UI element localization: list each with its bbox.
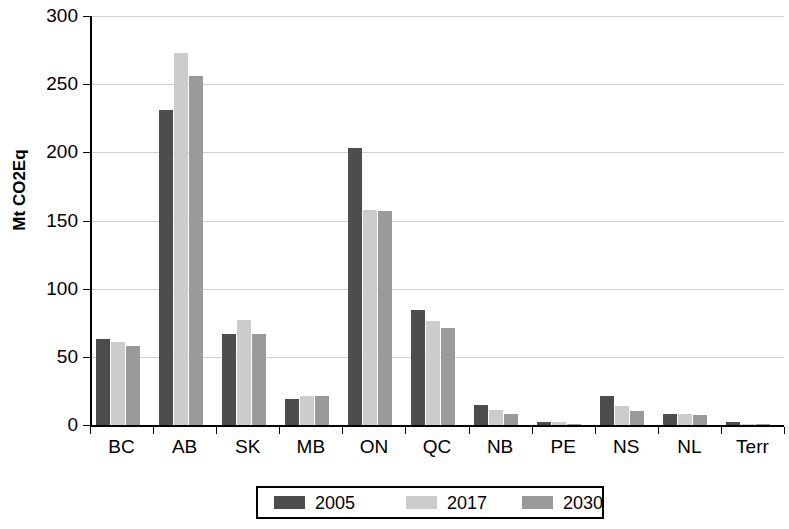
y-tick-label: 200 (18, 142, 78, 161)
bar (489, 410, 503, 425)
y-tick-mark (83, 357, 90, 358)
y-tick-mark (83, 425, 90, 426)
bar (159, 110, 173, 425)
legend: 200520172030 (256, 486, 604, 519)
x-tick-mark (405, 427, 406, 434)
bar (189, 76, 203, 425)
plot-area: 300250200150100500 (90, 16, 784, 425)
bar (252, 334, 266, 425)
bar (474, 405, 488, 425)
legend-item-2030[interactable]: 2030 (522, 488, 603, 517)
bar-group (537, 16, 581, 425)
y-tick-label: 250 (18, 74, 78, 93)
y-tick-mark (83, 84, 90, 85)
y-tick-mark (83, 221, 90, 222)
y-tick-label: 150 (18, 211, 78, 230)
bar (615, 406, 629, 425)
bar (678, 414, 692, 425)
x-tick-mark (784, 427, 785, 434)
bar (111, 342, 125, 425)
bar (126, 346, 140, 425)
x-axis-labels: BCABSKMBONQCNBPENSNLTerr (90, 437, 784, 465)
x-tick-mark (658, 427, 659, 434)
bar-group (411, 16, 455, 425)
bar-group (222, 16, 266, 425)
x-tick-mark (342, 427, 343, 434)
x-tick-mark (532, 427, 533, 434)
bar (315, 396, 329, 425)
x-tick-mark (595, 427, 596, 434)
legend-item-2005[interactable]: 2005 (274, 488, 355, 517)
bar-group (600, 16, 644, 425)
legend-label: 2005 (315, 494, 355, 512)
y-tick-label: 50 (18, 347, 78, 366)
bar (426, 321, 440, 425)
x-tick-mark (216, 427, 217, 434)
bar-group (663, 16, 707, 425)
legend-swatch-icon (522, 496, 553, 509)
legend-label: 2017 (447, 494, 487, 512)
bar (348, 148, 362, 425)
bar (237, 320, 251, 425)
x-axis-line (90, 425, 784, 427)
bar-group (726, 16, 770, 425)
x-tick-mark (153, 427, 154, 434)
y-tick-label: 0 (18, 415, 78, 434)
bar (411, 310, 425, 425)
y-tick-label: 300 (18, 6, 78, 25)
bar (630, 411, 644, 425)
bar-group (96, 16, 140, 425)
bar (222, 334, 236, 425)
x-tick-mark (469, 427, 470, 434)
x-tick-mark (279, 427, 280, 434)
y-tick-label: 100 (18, 279, 78, 298)
bar-group (285, 16, 329, 425)
y-tick-mark (83, 289, 90, 290)
bar (300, 396, 314, 425)
bar (96, 339, 110, 425)
bar (378, 211, 392, 425)
bar (600, 396, 614, 425)
legend-item-2017[interactable]: 2017 (406, 488, 487, 517)
legend-label: 2030 (563, 494, 603, 512)
bar (663, 414, 677, 425)
x-tick-label: Terr (712, 437, 789, 458)
legend-swatch-icon (406, 496, 437, 509)
bar (504, 414, 518, 425)
y-tick-mark (83, 16, 90, 17)
bar-group (348, 16, 392, 425)
y-tick-mark (83, 152, 90, 153)
y-axis-line (90, 16, 92, 427)
bar-group (474, 16, 518, 425)
x-tick-mark (721, 427, 722, 434)
bar-group (159, 16, 203, 425)
bar (285, 399, 299, 425)
bar (363, 210, 377, 425)
legend-swatch-icon (274, 496, 305, 509)
bar (174, 53, 188, 425)
bar (693, 415, 707, 425)
x-tick-mark (90, 427, 91, 434)
bar (441, 328, 455, 425)
